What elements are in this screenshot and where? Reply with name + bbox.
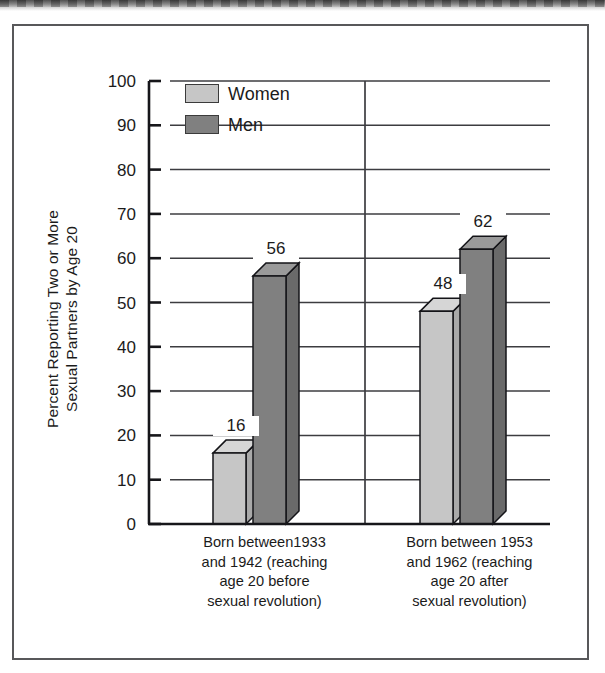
legend-item-women: Women <box>185 78 335 109</box>
legend-label-women: Women <box>228 85 290 103</box>
y-tick-label-30: 30 <box>88 383 136 400</box>
y-axis-title-line-1: Percent Reporting Two or More <box>43 109 62 529</box>
y-tick-label-0: 0 <box>88 516 136 533</box>
category-label-group-1-line-1: Born between1933 <box>157 533 372 553</box>
category-label-group-2: Born between 1953and 1962 (reachingage 2… <box>362 533 577 611</box>
category-label-group-1-line-3: age 20 before <box>157 572 372 592</box>
bar-value-label-men-2: 62 <box>460 212 506 232</box>
bar-value-label-men-1: 56 <box>253 239 299 259</box>
chart-legend: Women Men <box>185 78 335 140</box>
bar-value-label-women-1: 16 <box>213 416 259 436</box>
legend-swatch-men-icon <box>185 115 219 134</box>
y-tick-label-80: 80 <box>88 162 136 179</box>
category-label-group-1-line-2: and 1942 (reaching <box>157 553 372 573</box>
legend-swatch-women-icon <box>185 84 219 103</box>
bar-value-label-women-2: 48 <box>420 274 466 294</box>
category-label-group-2-line-2: and 1962 (reaching <box>362 553 577 573</box>
y-axis-title-line-2: Sexual Partners by Age 20 <box>62 109 81 529</box>
category-label-group-2-line-4: sexual revolution) <box>362 592 577 612</box>
y-tick-label-70: 70 <box>88 206 136 223</box>
legend-item-men: Men <box>185 109 335 140</box>
y-tick-label-100: 100 <box>88 73 136 90</box>
y-tick-label-20: 20 <box>88 427 136 444</box>
legend-label-men: Men <box>228 116 263 134</box>
category-label-group-2-line-3: age 20 after <box>362 572 577 592</box>
y-tick-label-90: 90 <box>88 117 136 134</box>
category-label-group-1: Born between1933and 1942 (reachingage 20… <box>157 533 372 611</box>
y-tick-label-60: 60 <box>88 250 136 267</box>
y-tick-label-50: 50 <box>88 295 136 312</box>
y-axis-title: Percent Reporting Two or More Sexual Par… <box>43 109 81 529</box>
category-label-group-2-line-1: Born between 1953 <box>362 533 577 553</box>
y-tick-label-10: 10 <box>88 472 136 489</box>
y-tick-label-40: 40 <box>88 339 136 356</box>
category-label-group-1-line-4: sexual revolution) <box>157 592 372 612</box>
scan-artifact-smudge <box>0 0 605 11</box>
